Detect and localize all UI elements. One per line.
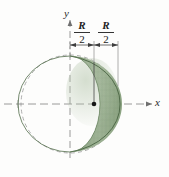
dimension-label-r-over-2-right: R 2	[95, 20, 117, 45]
center-point-dot	[92, 102, 97, 107]
fraction-denominator: 2	[95, 33, 117, 45]
fraction-denominator: 2	[71, 33, 93, 45]
figure-spherical-cap-diagram: y x R 2 R 2	[0, 0, 169, 177]
fraction-numerator: R	[71, 20, 93, 32]
dimension-label-r-over-2-left: R 2	[71, 20, 93, 45]
fraction-numerator: R	[95, 20, 117, 32]
x-axis-label: x	[155, 97, 160, 108]
y-axis-label: y	[64, 8, 69, 19]
